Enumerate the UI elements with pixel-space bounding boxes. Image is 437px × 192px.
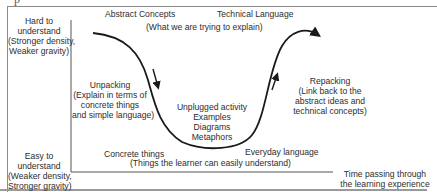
down-arrow-icon	[153, 69, 158, 87]
x-axis-label: Time passing through the learning experi…	[340, 169, 430, 189]
repacking-label: Repacking (Link back to the abstract ide…	[292, 76, 368, 116]
trough-activities-label: Unplugged activity Examples Diagrams Met…	[172, 102, 252, 142]
up-arrow-icon	[272, 75, 277, 90]
title-fragment: p	[14, 0, 20, 4]
technical-language-label: Technical Language	[217, 9, 293, 19]
abstract-concepts-label: Abstract Concepts	[105, 9, 175, 19]
top-subtitle: (What we are trying to explain)	[146, 22, 263, 32]
unpacking-label: Unpacking (Explain in terms of concrete …	[72, 80, 148, 120]
bottom-subtitle: (Things the learner can easily understan…	[130, 158, 291, 168]
y-axis-top-label: Hard to understand (Stronger density, We…	[8, 16, 70, 56]
everyday-language-label: Everyday language	[245, 147, 319, 157]
y-axis-bottom-label: Easy to understand (Weaker density, Stro…	[8, 151, 70, 191]
